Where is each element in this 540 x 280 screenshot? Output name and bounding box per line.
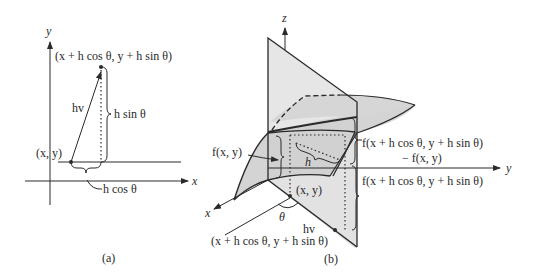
y-axis-label-b: y xyxy=(505,161,512,175)
vector-hv-a xyxy=(71,72,101,162)
h-label-b: h xyxy=(305,155,311,169)
caption-b: (b) xyxy=(324,252,338,266)
f-end-label: f(x + h cos θ, y + h sin θ) xyxy=(362,174,483,188)
x-axis-label-a: x xyxy=(191,174,198,188)
horizontal-brace-a xyxy=(71,162,101,173)
figure-svg: y x h sin θ h cos θ (x, y) (x + h cos θ,… xyxy=(0,0,540,280)
h-cos-theta-label: h cos θ xyxy=(103,182,137,196)
figure-b: z y x xyxy=(204,11,512,266)
h-sin-theta-label: h sin θ xyxy=(114,107,146,121)
angle-label: θ xyxy=(279,210,285,224)
x-axis-label-b: x xyxy=(204,206,211,220)
vertical-brace-a xyxy=(101,67,111,162)
end-point-label-b: (x + h cos θ, y + h sin θ) xyxy=(211,234,328,248)
directional-derivative-figure: y x h sin θ h cos θ (x, y) (x + h cos θ,… xyxy=(0,0,540,280)
base-point-label-b: (x, y) xyxy=(296,183,322,197)
f-diff-label-line1: f(x + h cos θ, y + h sin θ) xyxy=(362,136,483,150)
end-point-b xyxy=(333,228,337,232)
y-axis-label-a: y xyxy=(45,24,52,38)
f-diff-label-line2: − f(x, y) xyxy=(402,151,442,165)
figure-a: y x h sin θ h cos θ (x, y) (x + h cos θ,… xyxy=(25,24,198,265)
vector-label-a: hv xyxy=(72,101,84,115)
caption-a: (a) xyxy=(102,251,115,265)
end-point-label-a: (x + h cos θ, y + h sin θ) xyxy=(55,49,172,63)
base-point-b xyxy=(288,194,292,198)
f-base-label: f(x, y) xyxy=(212,145,242,159)
angle-arc xyxy=(278,203,298,208)
start-point-label-a: (x, y) xyxy=(36,146,62,160)
z-axis-label-b: z xyxy=(281,11,287,25)
